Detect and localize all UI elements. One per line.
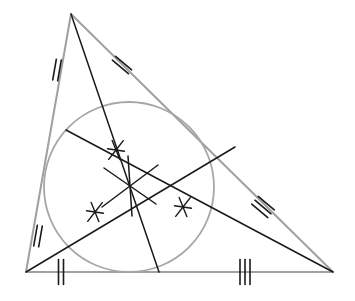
bisector-star-upper-ray-3 [109, 150, 116, 159]
left-side [26, 14, 71, 272]
tick-left-lower [34, 225, 43, 247]
incenter-cross-mark-arm-4 [102, 186, 130, 207]
side-tick-group [34, 56, 275, 284]
bisector-from-bottom-left [26, 147, 235, 272]
bisector-star-right-ray-2 [183, 207, 187, 216]
geometry-canvas [0, 0, 355, 301]
tick-right-lower [252, 196, 275, 217]
bisector-star-upper-ray-4 [108, 149, 116, 150]
bisector-star-lower-left-ray-4 [87, 211, 95, 212]
bisector-star-lower-left-ray-5 [91, 203, 95, 212]
bisector-star-right-ray-5 [179, 198, 183, 207]
tick-right-lower-mark-1 [258, 196, 274, 210]
geometry-figure [0, 0, 355, 301]
bisector-from-bottom-right [66, 130, 333, 272]
bisector-star-lower-left-ray-6 [95, 203, 102, 212]
cevian-group [26, 14, 333, 272]
tick-left-upper-mark-2 [53, 59, 57, 80]
bisector-star-right-ray-3 [176, 207, 183, 216]
bisector-star-right-ray-4 [175, 206, 183, 207]
incenter-cross-mark [102, 156, 158, 216]
bisector-star-upper-ray-6 [116, 141, 123, 150]
tick-right-upper-mark-1 [116, 56, 132, 70]
angle-mark-group [87, 141, 192, 222]
incenter-cross-group [102, 156, 158, 216]
bisector-star-lower-left-ray-1 [95, 212, 103, 213]
tick-left-lower-mark-1 [39, 226, 43, 247]
bisector-star-lower-left-ray-2 [95, 212, 99, 221]
bisector-star-right-ray-1 [183, 207, 191, 208]
incenter-cross-mark-arm-3 [130, 165, 158, 186]
bisector-from-apex [71, 14, 159, 272]
bisector-star-right-ray-6 [183, 198, 190, 207]
bisector-star-lower-left [87, 203, 104, 222]
triangle-group [26, 14, 333, 272]
bisector-star-lower-left-ray-3 [88, 212, 95, 221]
bisector-star-right [175, 198, 192, 217]
